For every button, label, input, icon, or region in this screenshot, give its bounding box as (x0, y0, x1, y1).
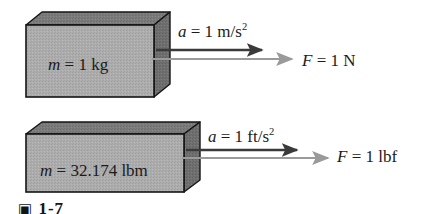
mass-label-si: m = 1 kg (48, 56, 108, 73)
block-english (26, 122, 200, 192)
acceleration-equals-si: = (187, 22, 205, 41)
force-unit-english: lbf (378, 147, 397, 166)
block-si-side-face (154, 12, 170, 97)
acceleration-equals-english: = (217, 127, 235, 146)
force-value-si: 1 (330, 51, 339, 70)
acceleration-exponent-english: 2 (269, 126, 274, 137)
block-english-top-face (26, 122, 200, 134)
mass-value-english: 32.174 (70, 161, 117, 180)
force-label-english: F = 1 lbf (337, 148, 397, 165)
acceleration-symbol-english: a (208, 127, 217, 146)
acceleration-exponent-si: 2 (242, 21, 247, 32)
force-symbol-si: F (302, 51, 312, 70)
acceleration-label-si: a = 1 m/s2 (178, 22, 247, 40)
figure-caption-mark: ▣ (18, 200, 33, 214)
figure-caption-number: 1-7 (38, 199, 64, 214)
block-si-top-face (26, 12, 170, 25)
acceleration-value-english: 1 (235, 127, 244, 146)
force-label-si: F = 1 N (302, 52, 356, 69)
mass-unit-si: kg (91, 55, 108, 74)
acceleration-unit-si: m/s (217, 22, 242, 41)
mass-equals-english: = (52, 161, 70, 180)
force-symbol-english: F (337, 147, 347, 166)
acceleration-symbol-si: a (178, 22, 187, 41)
mass-value-si: 1 (78, 55, 87, 74)
acceleration-value-si: 1 (205, 22, 214, 41)
figure-caption: ▣ 1-7 (18, 199, 64, 214)
mass-unit-english: lbm (121, 161, 147, 180)
force-value-english: 1 (365, 147, 374, 166)
force-equals-si: = (312, 51, 330, 70)
acceleration-unit-english: ft/s (247, 127, 269, 146)
mass-symbol-si: m (48, 55, 60, 74)
acceleration-label-english: a = 1 ft/s2 (208, 127, 274, 145)
mass-label-english: m = 32.174 lbm (40, 162, 148, 179)
force-equals-english: = (347, 147, 365, 166)
mass-symbol-english: m (40, 161, 52, 180)
mass-equals-si: = (60, 55, 78, 74)
force-unit-si: N (343, 51, 355, 70)
